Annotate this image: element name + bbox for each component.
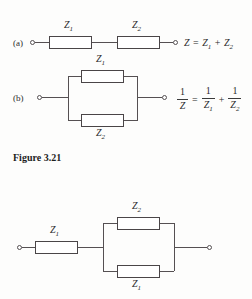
impedance-box-a-z2	[117, 36, 160, 49]
impedance-label-a-z1: Z1	[64, 20, 73, 33]
wire-b-bot-right	[124, 120, 137, 121]
terminal-right-c	[207, 245, 212, 250]
terminal-right-a	[173, 40, 178, 45]
wire-c-in	[22, 247, 35, 248]
wire-c-bot-left	[103, 271, 117, 272]
wire-a-2	[92, 42, 117, 43]
rail-right-b	[137, 76, 138, 121]
impedance-label-c-z1-branch: Z1	[132, 279, 141, 292]
wire-c-out	[174, 247, 207, 248]
fraction-term-2: 1 Z2	[228, 86, 241, 113]
wire-b-in	[42, 97, 68, 98]
impedance-box-b-z2	[81, 114, 124, 127]
equation-series: Z = Z1 + Z2	[184, 37, 233, 51]
wire-c-mid	[78, 247, 103, 248]
impedance-label-b-z1: Z1	[96, 54, 105, 67]
impedance-label-c-z2: Z2	[132, 201, 141, 214]
part-label-a: (a)	[13, 38, 23, 48]
rail-left-b	[68, 76, 69, 121]
impedance-label-b-z2: Z2	[96, 128, 105, 141]
impedance-box-a-z1	[49, 36, 92, 49]
impedance-box-c-z1-branch	[117, 265, 160, 278]
fraction-lhs: 1 Z	[177, 87, 188, 111]
fraction-numerator: 1	[204, 86, 213, 98]
wire-c-top-left	[103, 223, 117, 224]
diagram-series: (a) Z1 Z2 Z = Z1 + Z2	[0, 18, 252, 58]
wire-c-bot-right	[160, 271, 174, 272]
impedance-box-c-z2	[117, 217, 160, 230]
impedance-label-c-z1-series: Z1	[50, 225, 59, 238]
wire-a-3	[160, 42, 173, 43]
plus-sign: +	[216, 94, 228, 105]
fraction-denominator: Z1	[202, 99, 215, 113]
fraction-denominator: Z	[178, 100, 188, 112]
wire-a-1	[35, 42, 49, 43]
part-label-b: (b)	[13, 93, 24, 103]
wire-b-top-right	[124, 76, 137, 77]
fraction-term-1: 1 Z1	[202, 86, 215, 113]
diagram-parallel: (b) Z1 Z2 1 Z = 1	[0, 62, 252, 132]
fraction-numerator: 1	[230, 86, 239, 98]
fraction-numerator: 1	[178, 87, 187, 99]
wire-c-top-right	[160, 223, 174, 224]
wire-b-top-left	[68, 76, 81, 77]
wire-b-out	[137, 97, 162, 98]
fraction-denominator: Z2	[228, 99, 241, 113]
rail-left-c	[103, 223, 104, 271]
impedance-label-a-z2: Z2	[132, 20, 141, 33]
terminal-right-b	[162, 95, 167, 100]
figure-page: (a) Z1 Z2 Z = Z1 + Z2 (b) Z1	[0, 0, 252, 299]
impedance-box-b-z1	[81, 70, 124, 83]
wire-b-bot-left	[68, 120, 81, 121]
impedance-box-c-z1-series	[35, 241, 78, 254]
equals-sign: =	[189, 94, 201, 105]
figure-caption: Figure 3.21	[13, 152, 61, 163]
diagram-series-parallel: Z1 Z2 Z1	[0, 190, 252, 299]
equation-parallel: 1 Z = 1 Z1 + 1 Z2	[176, 86, 242, 113]
